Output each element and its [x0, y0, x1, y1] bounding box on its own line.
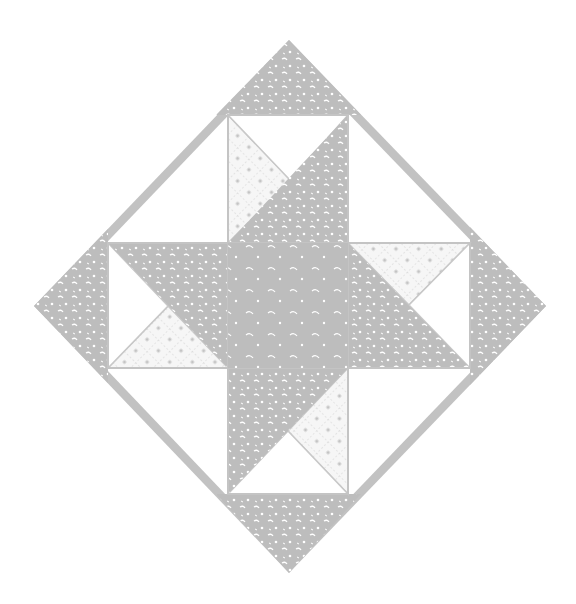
bottom-arm	[228, 368, 348, 494]
quilt-block-illustration	[0, 0, 576, 604]
left-cap	[34, 229, 108, 383]
right-cap	[470, 227, 546, 385]
top-cap	[216, 40, 361, 115]
top-arm	[228, 115, 348, 243]
bottom-cap	[216, 494, 361, 573]
center-square	[228, 243, 348, 368]
right-arm	[348, 243, 470, 368]
left-arm	[108, 243, 228, 368]
